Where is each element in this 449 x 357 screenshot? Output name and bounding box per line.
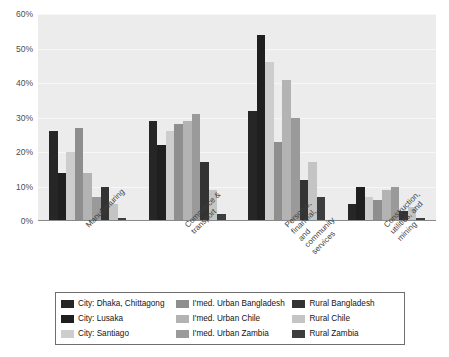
- legend-item[interactable]: Rural Chile: [292, 312, 399, 325]
- bar: [66, 152, 75, 221]
- x-axis-label-cell: Manufacturing: [38, 221, 138, 289]
- bar: [83, 173, 92, 221]
- legend-swatch-icon: [292, 315, 305, 323]
- bar: [373, 200, 382, 221]
- legend-item-label: Rural Zambia: [309, 329, 358, 338]
- legend-item-label: Rural Bangladesh: [309, 299, 374, 308]
- bar-group: [237, 14, 337, 221]
- legend-item[interactable]: I'med. Urban Zambia: [176, 327, 293, 340]
- bar: [291, 118, 300, 222]
- y-axis-tick-label: 30%: [16, 113, 33, 123]
- legend-swatch-icon: [61, 330, 74, 338]
- y-axis-tick-label: 60%: [16, 9, 33, 19]
- bar: [192, 114, 201, 221]
- y-axis-tick-label: 40%: [16, 78, 33, 88]
- bar: [282, 80, 291, 221]
- legend-item[interactable]: City: Dhaka, Chittagong: [61, 297, 176, 310]
- bar: [58, 173, 67, 221]
- legend-swatch-icon: [176, 330, 189, 338]
- legend-item[interactable]: City: Lusaka: [61, 312, 176, 325]
- legend-item-label: City: Santiago: [78, 329, 129, 338]
- y-axis-tick-label: 10%: [16, 182, 33, 192]
- bar-groups: [38, 14, 436, 221]
- bar: [75, 128, 84, 221]
- legend-column: City: Dhaka, ChittagongCity: LusakaCity:…: [61, 297, 176, 340]
- bar: [49, 131, 58, 221]
- legend-swatch-icon: [292, 300, 305, 308]
- bar: [265, 62, 274, 221]
- bar: [166, 131, 175, 221]
- legend-item[interactable]: I'med. Urban Bangladesh: [176, 297, 293, 310]
- legend-item[interactable]: Rural Zambia: [292, 327, 399, 340]
- bar-group-bars: [138, 14, 238, 221]
- bar: [356, 187, 365, 222]
- x-axis-label-cell: Construction, utilities, and mining: [337, 221, 437, 289]
- bar: [149, 121, 158, 221]
- bar: [183, 121, 192, 221]
- bar: [274, 142, 283, 221]
- legend-item[interactable]: I'med. Urban Chile: [176, 312, 293, 325]
- bar-group-bars: [337, 14, 437, 221]
- bar-group: [138, 14, 238, 221]
- legend-item[interactable]: Rural Bangladesh: [292, 297, 399, 310]
- legend-swatch-icon: [292, 330, 305, 338]
- bar-group: [337, 14, 437, 221]
- legend-swatch-icon: [61, 300, 74, 308]
- bar: [174, 124, 183, 221]
- plot-area: 0%10%20%30%40%50%60%: [38, 14, 436, 221]
- legend-swatch-icon: [176, 315, 189, 323]
- bar: [257, 35, 266, 221]
- bar-chart: 0%10%20%30%40%50%60% ManufacturingCommer…: [0, 0, 449, 357]
- legend-item-label: Rural Chile: [309, 314, 350, 323]
- bar: [365, 197, 374, 221]
- legend-swatch-icon: [61, 315, 74, 323]
- x-axis-labels: ManufacturingCommerce & transportPersona…: [38, 221, 436, 289]
- bar-group-bars: [237, 14, 337, 221]
- y-axis-tick-label: 20%: [16, 147, 33, 157]
- legend-item-label: I'med. Urban Chile: [193, 314, 261, 323]
- legend-swatch-icon: [176, 300, 189, 308]
- bar: [157, 145, 166, 221]
- y-axis-tick-label: 0%: [21, 216, 33, 226]
- legend-item-label: I'med. Urban Bangladesh: [193, 299, 285, 308]
- chart-legend: City: Dhaka, ChittagongCity: LusakaCity:…: [55, 292, 405, 345]
- legend-item-label: City: Lusaka: [78, 314, 123, 323]
- bar: [248, 111, 257, 221]
- y-axis-tick-label: 50%: [16, 44, 33, 54]
- x-axis-label-cell: Commerce & transport: [138, 221, 238, 289]
- legend-item[interactable]: City: Santiago: [61, 327, 176, 340]
- legend-column: Rural BangladeshRural ChileRural Zambia: [292, 297, 399, 340]
- x-axis-label-cell: Personal, financial, and community servi…: [237, 221, 337, 289]
- legend-item-label: I'med. Urban Zambia: [193, 329, 269, 338]
- legend-column: I'med. Urban BangladeshI'med. Urban Chil…: [176, 297, 293, 340]
- legend-item-label: City: Dhaka, Chittagong: [78, 299, 164, 308]
